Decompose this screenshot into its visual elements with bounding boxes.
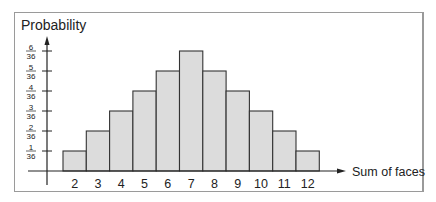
svg-text:3: 3 [29, 103, 34, 112]
y-tick-fraction: 536 [26, 63, 36, 81]
bar-6 [156, 71, 179, 171]
bar-9 [226, 91, 249, 171]
svg-text:36: 36 [27, 152, 36, 161]
x-tick-label: 10 [254, 177, 268, 191]
y-tick-fraction: 136 [26, 143, 36, 161]
histogram-chart: 136236336436536636 23456789101112 Probab… [0, 0, 436, 202]
svg-text:1: 1 [29, 143, 34, 152]
bar-11 [273, 131, 296, 171]
x-tick-label: 3 [94, 177, 101, 191]
x-tick-label: 6 [164, 177, 171, 191]
x-axis-arrow-icon [337, 169, 346, 174]
y-axis-arrow-icon [45, 36, 50, 45]
bar-5 [133, 91, 156, 171]
x-tick-label: 7 [188, 177, 195, 191]
x-tick-label: 2 [71, 177, 78, 191]
svg-text:4: 4 [29, 83, 34, 92]
y-tick-fraction: 236 [26, 123, 36, 141]
bar-3 [86, 131, 109, 171]
bar-7 [180, 51, 203, 171]
x-tick-label: 12 [301, 177, 315, 191]
svg-text:36: 36 [27, 112, 36, 121]
svg-text:6: 6 [29, 43, 34, 52]
bar-10 [249, 111, 272, 171]
x-ticks-group: 23456789101112 [71, 177, 314, 191]
y-axis-label: Probability [21, 17, 86, 33]
svg-text:36: 36 [27, 92, 36, 101]
x-tick-label: 8 [211, 177, 218, 191]
x-axis-label: Sum of faces [352, 165, 425, 179]
x-tick-label: 5 [141, 177, 148, 191]
svg-text:36: 36 [27, 72, 36, 81]
bar-8 [203, 71, 226, 171]
svg-text:5: 5 [29, 63, 34, 72]
x-tick-label: 9 [234, 177, 241, 191]
y-tick-fraction: 336 [26, 103, 36, 121]
bars-group [63, 51, 319, 171]
svg-text:36: 36 [27, 52, 36, 61]
bar-12 [296, 151, 319, 171]
bar-4 [110, 111, 133, 171]
y-tick-fraction: 636 [26, 43, 36, 61]
bar-2 [63, 151, 86, 171]
svg-text:2: 2 [29, 123, 34, 132]
y-tick-fraction: 436 [26, 83, 36, 101]
x-tick-label: 11 [278, 177, 291, 191]
y-ticks-group: 136236336436536636 [26, 43, 52, 161]
x-tick-label: 4 [118, 177, 125, 191]
svg-text:36: 36 [27, 132, 36, 141]
